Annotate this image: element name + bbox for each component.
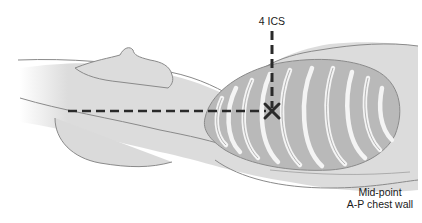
midpoint-label-line2: A-P chest wall [335,198,422,210]
midpoint-label-line1: Mid-point [335,186,422,198]
ics-label: 4 ICS [252,15,292,27]
midpoint-label: Mid-point A-P chest wall [335,186,422,210]
ribcage [204,59,399,170]
